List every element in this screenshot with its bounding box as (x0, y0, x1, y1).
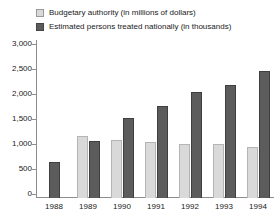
bar-persons-treated (157, 106, 168, 198)
x-tick-label: 1990 (105, 202, 139, 212)
bar-group-1988 (37, 40, 71, 198)
x-tick-label: 1993 (207, 202, 241, 212)
bar-budgetary-authority (213, 144, 224, 198)
bars-container (37, 40, 275, 198)
y-tick-label: 1,500 (12, 115, 32, 123)
bar-persons-treated (191, 92, 202, 198)
bar-budgetary-authority (179, 144, 190, 198)
bar-persons-treated (259, 71, 270, 198)
bar-persons-treated (123, 118, 134, 198)
legend-item-label: Budgetary authority (in millions of doll… (49, 8, 196, 18)
legend-swatch-icon-light (36, 9, 44, 17)
x-tick-label: 1994 (241, 202, 275, 212)
bar-persons-treated (49, 162, 60, 198)
chart-legend: Budgetary authority (in millions of doll… (36, 6, 272, 34)
y-tick-mark (32, 44, 36, 45)
legend-item-estimated-persons-treated: Estimated persons treated nationally (in… (36, 20, 272, 33)
bar-group-1992 (173, 40, 207, 198)
bar-group-1991 (139, 40, 173, 198)
bar-group-1989 (71, 40, 105, 198)
y-tick-mark (32, 94, 36, 95)
bar-chart: Budgetary authority (in millions of doll… (0, 0, 280, 222)
bar-budgetary-authority (247, 147, 258, 198)
y-tick-label: 2,500 (12, 65, 32, 73)
bar-group-1993 (207, 40, 241, 198)
y-tick-mark (32, 69, 36, 70)
x-tick-label: 1991 (139, 202, 173, 212)
legend-swatch-icon-dark (36, 23, 44, 31)
legend-item-budgetary-authority: Budgetary authority (in millions of doll… (36, 6, 272, 19)
bar-group-1994 (241, 40, 275, 198)
bar-budgetary-authority (77, 136, 88, 198)
y-tick-label: 3,000 (12, 40, 32, 48)
plot-area: 3,000 2,500 2,000 1,500 1,000 500 0 (0, 40, 280, 222)
y-tick-label: 1,000 (12, 140, 32, 148)
x-tick-label: 1988 (37, 202, 71, 212)
y-tick-mark (32, 119, 36, 120)
x-axis: 1988 1989 1990 1991 1992 1993 1994 (37, 202, 275, 212)
x-tick-label: 1989 (71, 202, 105, 212)
x-tick-label: 1992 (173, 202, 207, 212)
bar-budgetary-authority (111, 140, 122, 198)
y-tick-label: 500 (19, 165, 32, 173)
y-tick-label: 2,000 (12, 90, 32, 98)
bar-budgetary-authority (145, 142, 156, 198)
legend-item-label: Estimated persons treated nationally (in… (49, 22, 231, 32)
y-tick-mark (32, 144, 36, 145)
bar-persons-treated (89, 141, 100, 198)
bar-persons-treated (225, 85, 236, 198)
y-axis: 3,000 2,500 2,000 1,500 1,000 500 0 (0, 40, 34, 202)
bar-group-1990 (105, 40, 139, 198)
y-tick-mark (32, 194, 36, 195)
y-tick-mark (32, 169, 36, 170)
